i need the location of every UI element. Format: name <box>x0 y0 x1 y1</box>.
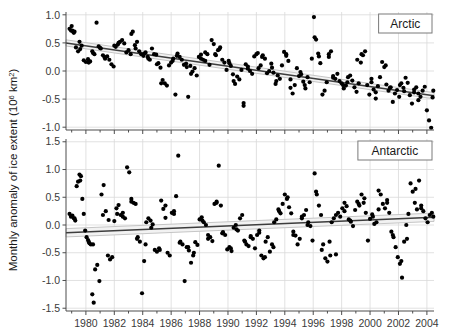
data-point <box>365 83 369 87</box>
data-point <box>404 223 408 227</box>
data-point <box>378 75 382 79</box>
data-point <box>286 195 290 199</box>
data-point <box>320 93 324 97</box>
data-point <box>341 83 345 87</box>
data-point <box>264 240 268 244</box>
data-point <box>243 240 247 244</box>
data-point <box>92 301 96 305</box>
data-point <box>383 206 387 210</box>
data-point <box>79 174 83 178</box>
data-point <box>239 68 243 72</box>
data-point <box>257 231 261 235</box>
y-tick-label: 0.0 <box>45 65 60 77</box>
y-tick-label: -1.0 <box>42 274 60 286</box>
data-point <box>412 87 416 91</box>
data-point <box>75 184 79 188</box>
data-point <box>116 41 120 45</box>
data-point <box>345 204 349 208</box>
data-point <box>199 57 203 61</box>
data-point <box>381 202 385 206</box>
data-point <box>335 72 339 76</box>
data-point <box>78 47 82 51</box>
data-point <box>271 245 275 249</box>
data-point <box>263 255 267 259</box>
data-point <box>427 118 431 122</box>
data-point <box>345 80 349 84</box>
data-point <box>210 239 214 243</box>
data-point <box>376 189 380 193</box>
data-point <box>90 292 94 296</box>
data-point <box>303 83 307 87</box>
data-point <box>204 223 208 227</box>
data-point <box>408 93 412 97</box>
data-point <box>430 95 434 99</box>
data-point <box>217 164 221 168</box>
panel-tag-antarctic: Antarctic <box>358 141 432 160</box>
data-point <box>398 83 402 87</box>
data-point <box>82 212 86 216</box>
data-point <box>415 207 419 211</box>
data-point <box>112 44 116 48</box>
data-point <box>304 208 308 212</box>
data-point <box>189 72 193 76</box>
data-point <box>125 165 129 169</box>
data-point <box>140 291 144 295</box>
data-point <box>146 57 150 61</box>
data-point <box>413 187 417 191</box>
x-tick-label: 1990 <box>216 317 240 329</box>
data-point <box>330 220 334 224</box>
data-point <box>384 63 388 67</box>
data-point <box>215 200 219 204</box>
data-point <box>240 213 244 217</box>
data-point <box>175 54 179 58</box>
data-point <box>369 80 373 84</box>
panel-tag-label: Arctic <box>390 17 420 31</box>
x-tick-label: 2004 <box>415 317 439 329</box>
data-point <box>127 170 131 174</box>
data-point <box>134 46 138 50</box>
data-point <box>357 202 361 206</box>
x-tick-label: 1982 <box>103 317 127 329</box>
data-point <box>91 51 95 55</box>
data-point <box>317 54 321 58</box>
data-point <box>266 235 270 239</box>
data-point <box>250 72 254 76</box>
data-point <box>155 62 159 66</box>
data-point <box>317 203 321 207</box>
x-tick-label: 1996 <box>302 317 326 329</box>
data-point <box>406 81 410 85</box>
data-point <box>429 126 433 130</box>
data-point <box>391 233 395 237</box>
data-point <box>87 240 91 244</box>
data-point <box>77 40 81 44</box>
panel-tag-label: Antarctic <box>372 144 419 158</box>
data-point <box>387 211 391 215</box>
data-point <box>388 86 392 90</box>
data-point <box>129 32 133 36</box>
data-point <box>253 246 257 250</box>
data-point <box>237 77 241 81</box>
data-point <box>172 212 176 216</box>
data-point <box>142 51 146 55</box>
data-point <box>227 61 231 65</box>
data-point <box>426 220 430 224</box>
data-point <box>200 218 204 222</box>
data-point <box>74 45 78 49</box>
data-point <box>121 215 125 219</box>
data-point <box>280 63 284 67</box>
x-tick-label: 2002 <box>387 317 411 329</box>
data-point <box>421 89 425 93</box>
data-point <box>274 217 278 221</box>
data-point <box>158 248 162 252</box>
data-point <box>192 66 196 70</box>
data-point <box>384 82 388 86</box>
data-point <box>174 194 178 198</box>
data-point <box>122 41 126 45</box>
data-point <box>376 207 380 211</box>
data-point <box>314 190 318 194</box>
data-point <box>78 179 82 183</box>
data-point <box>371 215 375 219</box>
data-point <box>106 253 110 257</box>
data-point <box>300 215 304 219</box>
y-tick-label: 0.0 <box>45 219 60 231</box>
